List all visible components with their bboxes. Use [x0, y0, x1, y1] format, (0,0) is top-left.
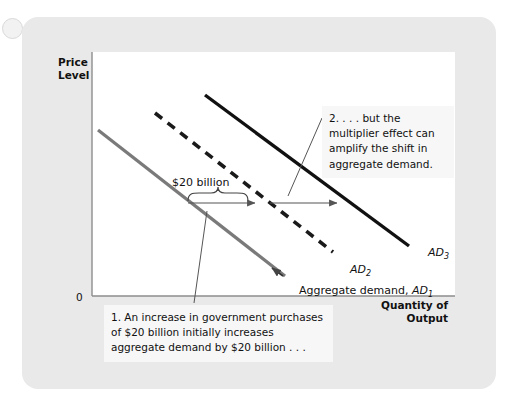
curve-label-ad3: AD3 [414, 233, 449, 274]
y-axis-title: PriceLevel [58, 56, 89, 82]
curve-label-ad3-text: AD [428, 246, 444, 259]
curve-label-ad1-text: AD [412, 284, 428, 297]
curve-label-ad1-prefix: Aggregate demand, [299, 284, 412, 297]
leader-line-callout-2 [288, 118, 322, 196]
curve-label-ad3-sub: 3 [444, 252, 449, 261]
callout-multiplier-effect: 2. . . . but the multiplier effect can a… [322, 106, 454, 178]
origin-label: 0 [76, 291, 83, 303]
leader-line-callout-1 [194, 211, 207, 303]
bracket-label: $20 billion [172, 176, 229, 189]
figure-container: PriceLevel Quantity ofOutput 0 AD3 AD2 A… [0, 0, 520, 406]
curve-label-ad1-sub: 1 [428, 290, 433, 299]
callout-government-purchases: 1. An increase in government purchases o… [104, 305, 333, 362]
bracket-20-billion [188, 187, 248, 201]
